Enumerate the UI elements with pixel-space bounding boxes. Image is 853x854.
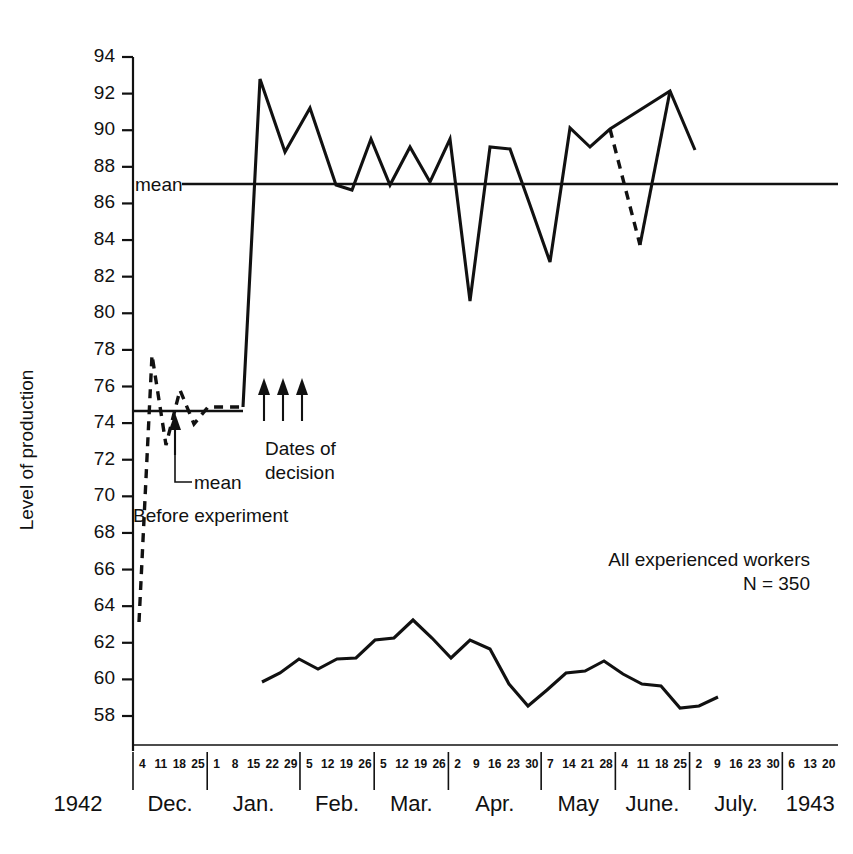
- x-axis-day-label: 11: [637, 757, 650, 771]
- x-axis-day-label: 2: [454, 757, 461, 771]
- x-axis-year-label-left: 1942: [54, 791, 103, 816]
- n-label: N = 350: [743, 573, 810, 594]
- chart-svg: Level of production 94929088868482807876…: [0, 0, 853, 854]
- y-axis-tick-label: 76: [94, 375, 115, 396]
- decision-arrow-1: [258, 378, 270, 421]
- y-axis-tick-label: 90: [94, 118, 115, 139]
- x-axis-day-label: 18: [173, 757, 187, 771]
- y-axis-label: Level of production: [16, 370, 37, 531]
- dates-of-decision-callout: Dates of decision: [258, 378, 336, 483]
- x-axis-day-label: 26: [432, 757, 446, 771]
- x-axis-day-label: 7: [547, 757, 554, 771]
- x-axis-day-label: 6: [788, 757, 795, 771]
- x-axis-day-label: 20: [822, 757, 836, 771]
- x-axis-month-label: Mar.: [390, 791, 433, 816]
- x-axis-day-label: 9: [473, 757, 480, 771]
- decision-arrow-3: [296, 378, 308, 421]
- mean-label-upper: mean: [135, 174, 183, 195]
- x-axis-day-label: 29: [284, 757, 298, 771]
- production-line-after-solid: [243, 79, 695, 407]
- x-axis-day-label: 11: [154, 757, 167, 771]
- x-axis-day-label: 8: [232, 757, 239, 771]
- decision-arrow-2: [277, 378, 289, 421]
- x-axis-day-label: 12: [321, 757, 335, 771]
- x-axis-day-label: 16: [729, 757, 743, 771]
- x-axis-day-label: 23: [748, 757, 762, 771]
- x-axis: 4111825Dec.18152229Jan.5121926Feb.512192…: [54, 745, 838, 816]
- production-line-july-recovery: [640, 91, 670, 245]
- y-axis-label-group: Level of production: [16, 370, 37, 531]
- x-axis-day-label: 25: [191, 757, 205, 771]
- y-axis-tick-label: 78: [94, 338, 115, 359]
- x-axis-day-label: 19: [340, 757, 354, 771]
- y-axis-tick-label: 64: [94, 594, 116, 615]
- x-axis-day-label: 22: [265, 757, 279, 771]
- x-axis-month-label: Dec.: [147, 791, 192, 816]
- x-axis-day-label: 30: [766, 757, 780, 771]
- y-axis-tick-label: 84: [94, 228, 116, 249]
- y-axis-tick-label: 94: [94, 45, 116, 66]
- x-axis-day-label: 1: [213, 757, 220, 771]
- x-axis-day-label: 12: [395, 757, 409, 771]
- x-axis-day-label: 21: [581, 757, 595, 771]
- y-axis-tick-label: 74: [94, 411, 116, 432]
- x-axis-day-label: 9: [714, 757, 721, 771]
- dates-of-decision-line1: Dates of: [265, 438, 336, 459]
- y-axis-tick-label: 58: [94, 704, 115, 725]
- mean-lower-callout: mean: [169, 413, 242, 493]
- mean-label-lower: mean: [194, 472, 242, 493]
- x-axis-day-label: 28: [599, 757, 613, 771]
- y-axis-tick-label: 92: [94, 82, 115, 103]
- x-axis-month-label: June.: [626, 791, 680, 816]
- production-line-july-dashed: [610, 129, 640, 245]
- x-axis-day-label: 5: [306, 757, 313, 771]
- before-experiment-label: Before experiment: [133, 505, 289, 526]
- y-axis-tick-label: 80: [94, 301, 115, 322]
- x-axis-day-label: 14: [562, 757, 576, 771]
- dates-of-decision-line2: decision: [265, 462, 335, 483]
- x-axis-year-label-right: 1943: [786, 791, 835, 816]
- mean-lower-leader: [175, 455, 192, 482]
- x-axis-month-label: July.: [714, 791, 758, 816]
- y-axis-tick-label: 60: [94, 667, 115, 688]
- x-axis-day-label: 15: [247, 757, 261, 771]
- y-axis-tick-label: 88: [94, 155, 115, 176]
- plot-area: mean mean Before experiment: [133, 79, 838, 708]
- y-axis: 94929088868482807876747270686664626058: [94, 45, 133, 751]
- y-axis-tick-label: 66: [94, 558, 115, 579]
- x-axis-month-label: Jan.: [233, 791, 275, 816]
- production-chart-figure: Level of production 94929088868482807876…: [0, 0, 853, 854]
- x-axis-day-label: 16: [488, 757, 502, 771]
- y-axis-tick-label: 68: [94, 521, 115, 542]
- x-axis-day-label: 19: [414, 757, 428, 771]
- x-axis-day-label: 2: [696, 757, 703, 771]
- y-axis-tick-label: 70: [94, 484, 115, 505]
- x-axis-day-label: 13: [803, 757, 817, 771]
- y-axis-tick-label: 86: [94, 191, 115, 212]
- x-axis-day-label: 26: [358, 757, 372, 771]
- x-axis-month-label: May: [557, 791, 599, 816]
- x-axis-month-label: Apr.: [475, 791, 514, 816]
- mean-lower-arrow-head: [169, 413, 181, 430]
- x-axis-day-label: 4: [621, 757, 628, 771]
- x-axis-month-label: Feb.: [315, 791, 359, 816]
- x-axis-day-label: 23: [507, 757, 521, 771]
- x-axis-day-label: 25: [674, 757, 688, 771]
- group-info-callout: All experienced workers N = 350: [608, 549, 810, 594]
- x-axis-day-label: 5: [380, 757, 387, 771]
- x-axis-day-label: 30: [525, 757, 539, 771]
- y-axis-tick-label: 72: [94, 448, 115, 469]
- lower-production-line: [262, 620, 718, 708]
- y-axis-tick-label: 62: [94, 631, 115, 652]
- x-axis-day-label: 18: [655, 757, 669, 771]
- x-axis-day-label: 4: [139, 757, 146, 771]
- group-label: All experienced workers: [608, 549, 810, 570]
- y-axis-tick-label: 82: [94, 265, 115, 286]
